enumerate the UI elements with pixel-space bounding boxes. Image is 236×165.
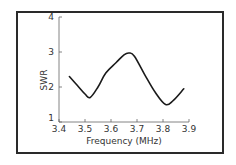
x-tick-label: 3.8 (156, 124, 171, 134)
x-tick-label: 3.6 (104, 124, 119, 134)
y-tick-label: 4 (48, 12, 54, 22)
x-tick-label: 3.7 (130, 124, 144, 134)
x-tick-label: 3.5 (78, 124, 92, 134)
x-tick-label: 3.4 (52, 124, 67, 134)
swr-chart: 3.43.53.63.73.83.91234 Frequency (MHz) S… (0, 0, 236, 165)
y-axis-label: SWR (39, 70, 49, 91)
x-axis-label: Frequency (MHz) (86, 136, 162, 146)
axes (59, 17, 189, 122)
tick-labels: 3.43.53.63.73.83.91234 (48, 12, 196, 134)
swr-curve (69, 53, 183, 105)
y-tick-label: 3 (48, 47, 54, 57)
x-tick-label: 3.9 (182, 124, 197, 134)
y-tick-label: 1 (48, 113, 54, 123)
y-tick-label: 2 (48, 82, 54, 92)
